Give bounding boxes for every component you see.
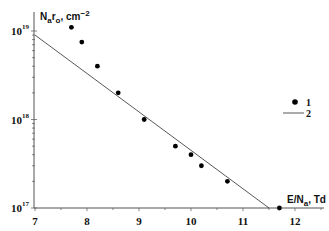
y-tick-label: 1018: [11, 112, 30, 126]
data-point: [225, 179, 230, 184]
axis-labels: 789101112101910181017Naro, cm−2E/Na, Td: [11, 9, 326, 227]
axes: [31, 12, 324, 211]
x-tick-label: 7: [32, 215, 38, 227]
fit-line-series-2: [35, 35, 269, 208]
data-point: [189, 152, 194, 157]
data-point: [79, 40, 84, 45]
x-tick-label: 12: [290, 215, 302, 227]
y-tick-label: 1017: [11, 200, 30, 214]
chart: 789101112101910181017Naro, cm−2E/Na, Td …: [0, 0, 329, 231]
data-point: [173, 144, 178, 149]
x-tick-label: 10: [186, 215, 198, 227]
legend-label-2: 2: [306, 108, 311, 119]
legend: 12: [283, 97, 311, 119]
data-point: [95, 64, 100, 69]
legend-label-1: 1: [306, 97, 311, 108]
x-tick-label: 8: [84, 215, 90, 227]
x-axis-title: E/Na, Td: [287, 194, 326, 208]
y-tick-label: 1019: [11, 23, 30, 37]
data-points-series-1: [69, 25, 282, 210]
data-point: [142, 117, 147, 122]
data-point: [277, 206, 282, 211]
data-point: [69, 25, 74, 30]
legend-marker-point: [292, 99, 298, 105]
x-tick-label: 11: [238, 215, 248, 227]
data-point: [116, 90, 121, 95]
fit-line: [35, 35, 269, 208]
x-tick-label: 9: [136, 215, 142, 227]
data-point: [199, 163, 204, 168]
y-axis-title: Naro, cm−2: [40, 9, 90, 25]
